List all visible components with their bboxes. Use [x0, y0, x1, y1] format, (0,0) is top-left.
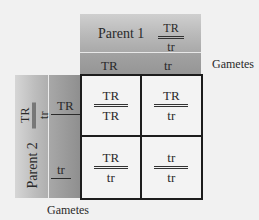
chromosome-bar — [158, 36, 184, 39]
parent1-gamete-1: TR — [98, 56, 121, 75]
chromosome-bar — [154, 166, 188, 169]
parent2-genotype: TR tr — [14, 102, 49, 128]
parent2-genotype-bottom: tr — [37, 111, 49, 118]
parent1-label: Parent 1 — [98, 26, 144, 42]
offspring-cell-r1-c0: TR tr — [82, 137, 142, 198]
parent1-gamete-2: tr — [158, 56, 178, 75]
parent2-label-group: Parent 2 TR tr — [15, 75, 48, 198]
parent2-genotype-top: TR — [18, 107, 32, 122]
punnett-grid: TR TR TR tr TR tr tr tr — [80, 74, 203, 200]
parent2-gamete-1: TR — [51, 96, 80, 115]
parent2-label: Parent 2 — [24, 142, 40, 188]
parent2-gamete-2: tr — [51, 160, 71, 179]
offspring-cell-r1-c1: tr tr — [142, 137, 202, 198]
offspring-cell-r0-c0: TR TR — [82, 76, 142, 137]
chromosome-bar — [154, 104, 188, 107]
chromosome-bar — [32, 102, 35, 128]
gametes-label-right: Gametes — [212, 57, 254, 72]
parent1-genotype: TR tr — [158, 18, 184, 53]
gametes-label-bottom: Gametes — [47, 203, 89, 218]
parent2-gametes-column — [49, 75, 80, 198]
chromosome-bar — [94, 104, 128, 107]
chromosome-bar — [94, 166, 128, 169]
parent1-genotype-bottom: tr — [167, 41, 174, 53]
offspring-cell-r0-c1: TR tr — [142, 76, 202, 137]
parent1-genotype-top: TR — [163, 22, 178, 36]
